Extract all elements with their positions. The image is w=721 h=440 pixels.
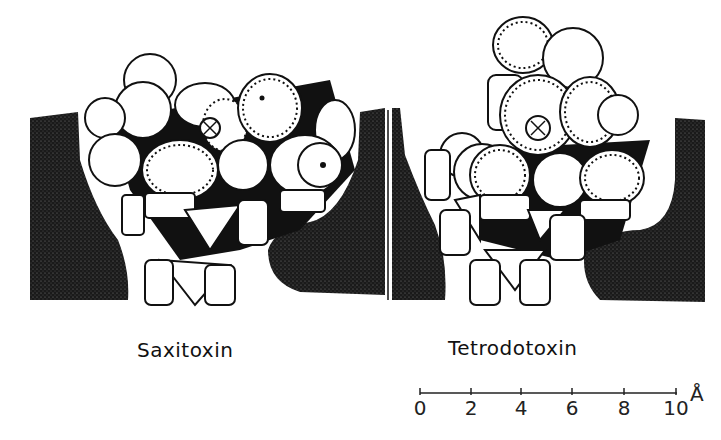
scale-unit-angstrom: Å xyxy=(690,382,704,406)
scale-tick-0: 0 xyxy=(414,396,427,420)
scale-tick-4: 4 xyxy=(515,396,528,420)
scale-tick-6: 6 xyxy=(566,396,579,420)
figure-canvas xyxy=(0,0,721,440)
saxitoxin-label: Saxitoxin xyxy=(137,338,233,362)
scale-tick-2: 2 xyxy=(465,396,478,420)
scale-tick-8: 8 xyxy=(618,396,631,420)
scale-tick-10: 10 xyxy=(663,396,688,420)
tetrodotoxin-panel xyxy=(392,17,705,305)
saxitoxin-panel xyxy=(30,54,385,305)
tetrodotoxin-label: Tetrodotoxin xyxy=(448,336,577,360)
scale-bar xyxy=(420,388,677,395)
channel-wall-left xyxy=(392,108,446,300)
